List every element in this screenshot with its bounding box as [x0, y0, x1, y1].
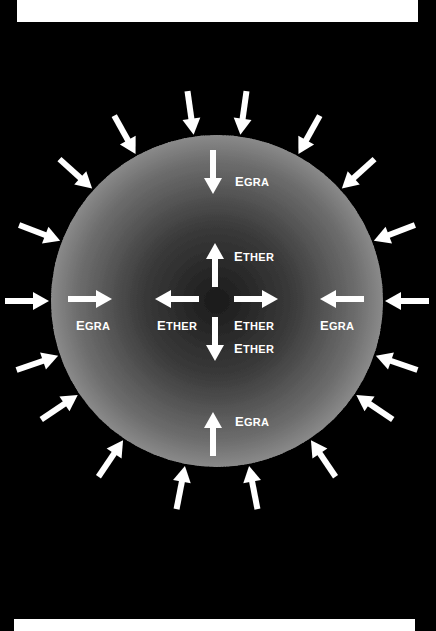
label-egra-right: EGRA — [320, 318, 354, 333]
arrow-inward-icon — [351, 387, 398, 427]
label-ether-up: ETHER — [234, 249, 274, 264]
arrow-inward-icon — [36, 387, 83, 427]
arrow-inward-icon — [168, 464, 194, 511]
arrow-inward-icon — [231, 90, 255, 136]
arrow-inward-icon — [16, 217, 64, 250]
arrow-inward-icon — [303, 435, 343, 482]
arrow-inward-icon — [106, 111, 143, 158]
label-ether-right: ETHER — [234, 318, 274, 333]
label-ether-down: ETHER — [234, 341, 274, 356]
arrow-inward-icon — [373, 347, 420, 378]
arrow-inward-icon — [385, 292, 429, 310]
bottom-caption-bar — [14, 619, 415, 631]
arrow-inward-icon — [53, 152, 98, 195]
arrow-inward-icon — [14, 347, 61, 378]
label-egra-bottom: EGRA — [235, 414, 269, 429]
arrow-inward-icon — [91, 435, 131, 482]
label-ether-left: ETHER — [157, 318, 197, 333]
arrow-inward-icon — [336, 152, 381, 195]
ether-egra-diagram — [0, 0, 436, 631]
arrow-inward-icon — [291, 111, 328, 158]
arrow-inward-icon — [179, 90, 203, 136]
arrow-inward-icon — [371, 217, 419, 250]
arrow-inward-icon — [240, 464, 266, 511]
label-egra-top: EGRA — [235, 174, 269, 189]
label-egra-left: EGRA — [76, 318, 110, 333]
arrow-inward-icon — [5, 292, 49, 310]
